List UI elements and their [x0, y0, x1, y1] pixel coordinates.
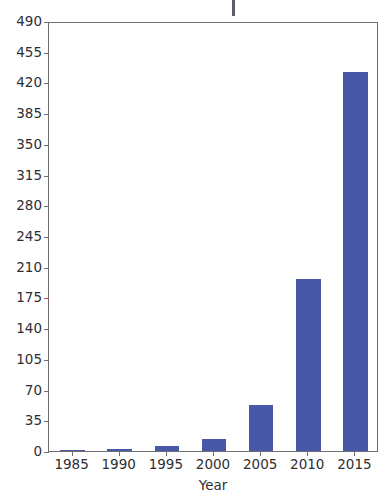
y-axis-tick-label: 385: [0, 107, 42, 121]
y-axis-tick-label: 455: [0, 46, 42, 60]
bar-1985: [60, 450, 85, 451]
bar-1990: [107, 449, 132, 451]
bar-1995: [155, 446, 180, 451]
y-axis-tick-label: 175: [0, 292, 42, 306]
y-axis-tick: [44, 329, 49, 330]
y-axis-tick: [44, 237, 49, 238]
y-axis-tick-label: 0: [0, 445, 42, 459]
y-axis-tick: [44, 22, 49, 23]
bar-2015: [343, 72, 368, 451]
y-axis-tick: [44, 391, 49, 392]
y-axis-tick-label: 140: [0, 322, 42, 336]
y-axis-tick-label: 105: [0, 353, 42, 367]
y-axis-tick: [44, 268, 49, 269]
y-axis-tick: [44, 114, 49, 115]
y-axis-tick: [44, 421, 49, 422]
y-axis-tick-label: 70: [0, 384, 42, 398]
bar-2010: [296, 279, 321, 451]
y-axis-tick-label: 280: [0, 200, 42, 214]
y-axis-tick: [44, 360, 49, 361]
y-axis-tick: [44, 206, 49, 207]
y-axis-tick-label: 420: [0, 77, 42, 91]
bar-2000: [202, 439, 227, 451]
y-axis-tick: [44, 145, 49, 146]
y-axis-tick-label: 245: [0, 230, 42, 244]
x-axis-tick-label: 2015: [324, 458, 384, 472]
plot-area: [49, 23, 377, 451]
y-axis-tick-label: 315: [0, 169, 42, 183]
y-axis-tick: [44, 452, 49, 453]
bar-2005: [249, 405, 274, 451]
y-axis-tick-label: 350: [0, 138, 42, 152]
y-axis-tick-label: 35: [0, 415, 42, 429]
y-axis-tick: [44, 53, 49, 54]
y-axis-tick: [44, 83, 49, 84]
y-axis-tick: [44, 176, 49, 177]
plot-frame: [48, 22, 378, 452]
x-axis-title: Year: [48, 479, 378, 493]
y-axis-tick: [44, 298, 49, 299]
y-axis-tick-label: 210: [0, 261, 42, 275]
top-edge-tick-mark: [232, 0, 235, 16]
y-axis-tick-label: 490: [0, 15, 42, 29]
bar-chart-figure: 0357010514017521024528031535038542045549…: [0, 0, 391, 503]
